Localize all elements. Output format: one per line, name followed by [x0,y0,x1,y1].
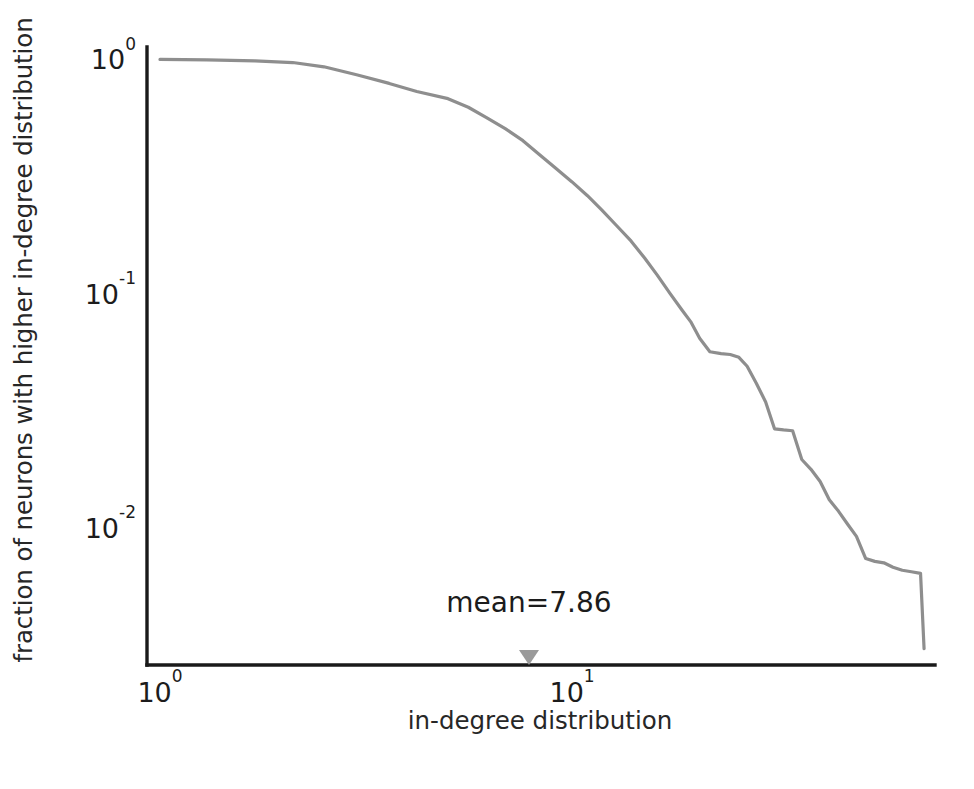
x-axis-label-container: in-degree distribution [0,706,974,735]
chart-plot-area [0,0,974,789]
y-axis-label: fraction of neurons with higher in-degre… [9,17,38,662]
data-series-line [160,59,924,648]
y-tick-label: 10-1 [85,280,136,307]
y-tick-label: 10-2 [85,514,136,541]
y-axis-label-container: fraction of neurons with higher in-degre… [0,0,46,680]
chart-figure: fraction of neurons with higher in-degre… [0,0,974,789]
mean-triangle-marker [519,650,539,665]
x-axis-label: in-degree distribution [408,706,672,735]
y-tick-label: 100 [91,46,136,73]
x-tick-label: 101 [549,679,594,706]
mean-annotation-text: mean=7.86 [446,586,611,619]
x-tick-label: 100 [137,679,182,706]
